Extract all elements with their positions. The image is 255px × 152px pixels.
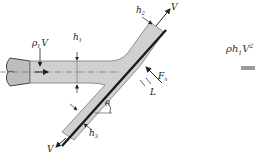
h2-label: h2 <box>136 5 145 16</box>
jet-input-label: ρ1V <box>31 38 49 49</box>
h3-label: h3 <box>89 128 98 139</box>
v-up-arrow <box>156 9 170 26</box>
jet-plate-diagram: ρ1V h1 h2 V Fn L θ h3 V <box>0 0 255 152</box>
force-label: Fn <box>157 71 167 82</box>
angle-label: θ <box>105 99 110 108</box>
scale-bar <box>241 66 255 70</box>
h3-dim <box>70 104 77 110</box>
v-up-label: V <box>171 2 179 12</box>
h1-label: h1 <box>73 32 82 43</box>
fluid-jet <box>30 22 164 140</box>
expr-sup: 2 <box>249 42 253 49</box>
momentum-flux-expression: ρh1V2 <box>226 42 253 56</box>
l-dim-a <box>140 80 145 86</box>
length-label: L <box>149 87 156 97</box>
v-down-label: V <box>47 144 55 152</box>
expr-prefix: ρh <box>226 43 238 54</box>
l-dim-b <box>146 78 151 84</box>
h2-dim <box>142 17 152 24</box>
